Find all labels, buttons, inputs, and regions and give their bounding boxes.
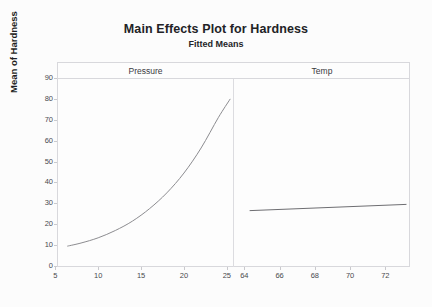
- x-axis-tick-mark: [98, 267, 99, 270]
- y-axis-tick-label: 60: [31, 137, 53, 145]
- y-axis-tick-label: 10: [31, 241, 53, 249]
- x-axis-tick-mark: [350, 267, 351, 270]
- y-axis-tick-mark: [54, 141, 57, 142]
- y-axis-tick-label: 40: [31, 178, 53, 186]
- y-axis-tick-label: 80: [31, 95, 53, 103]
- y-axis-tick-mark: [54, 245, 57, 246]
- chart-canvas: Main Effects Plot for Hardness Fitted Me…: [0, 0, 432, 307]
- y-axis-tick-label: 30: [31, 199, 53, 207]
- y-axis-tick-label: 50: [31, 158, 53, 166]
- page-subtitle: Fitted Means: [0, 38, 432, 50]
- y-axis-tick-mark: [54, 182, 57, 183]
- x-axis-tick-label: 5: [44, 272, 66, 280]
- y-axis-tick-mark: [54, 78, 57, 79]
- x-axis-tick-mark: [385, 267, 386, 270]
- y-axis-tick-label: 20: [31, 220, 53, 228]
- x-axis-tick-label: 66: [269, 272, 291, 280]
- x-axis-tick-mark: [55, 267, 56, 270]
- page-title: Main Effects Plot for Hardness: [0, 22, 432, 37]
- title-block: Main Effects Plot for Hardness Fitted Me…: [0, 22, 432, 50]
- plot-frame: Pressure Temp: [57, 62, 410, 267]
- y-axis-tick-mark: [54, 120, 57, 121]
- y-axis-tick-mark: [54, 224, 57, 225]
- panel-header-temp: Temp: [233, 64, 411, 78]
- y-axis-tick-label: 90: [31, 74, 53, 82]
- x-axis-tick-mark: [141, 267, 142, 270]
- panel-divider: [233, 79, 234, 267]
- x-axis-tick-label: 15: [130, 272, 152, 280]
- panel-header-pressure: Pressure: [58, 64, 233, 78]
- x-axis-tick-mark: [227, 267, 228, 270]
- y-axis-tick-label: 70: [31, 116, 53, 124]
- y-axis-tick-mark: [54, 99, 57, 100]
- x-axis-tick-mark: [184, 267, 185, 270]
- x-axis-tick-label: 20: [173, 272, 195, 280]
- x-axis-tick-mark: [315, 267, 316, 270]
- y-axis-tick-mark: [54, 203, 57, 204]
- y-axis-title: Mean of Hardness: [8, 0, 19, 112]
- x-axis-tick-label: 64: [233, 272, 255, 280]
- y-axis-tick-label: 0: [31, 262, 53, 270]
- x-axis-tick-mark: [280, 267, 281, 270]
- x-axis-tick-mark: [244, 267, 245, 270]
- x-axis-tick-label: 70: [339, 272, 361, 280]
- x-axis-tick-label: 68: [304, 272, 326, 280]
- y-axis-tick-mark: [54, 162, 57, 163]
- x-axis-tick-label: 10: [87, 272, 109, 280]
- x-axis-tick-label: 72: [374, 272, 396, 280]
